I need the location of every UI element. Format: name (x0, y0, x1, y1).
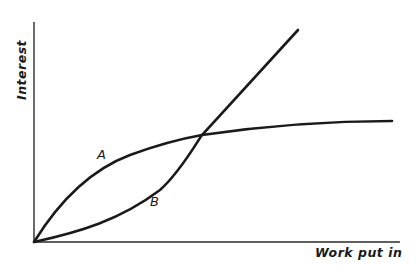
x-axis-label: Work put in (315, 245, 402, 260)
series-a-label: A (96, 147, 106, 162)
series-b-label: B (150, 194, 159, 209)
series-b-curve (34, 30, 298, 242)
y-axis-label: Interest (14, 39, 29, 100)
line-chart: Interest Work put in A B (0, 0, 416, 265)
series-a-curve (34, 121, 392, 242)
